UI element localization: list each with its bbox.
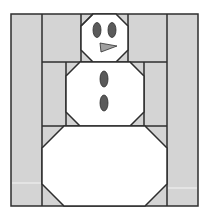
snowman-head — [81, 14, 128, 62]
left-eye-icon — [93, 23, 101, 38]
right-eye-icon — [108, 23, 116, 38]
bottom-button-icon — [100, 95, 108, 111]
snowman-bottom-body — [42, 126, 167, 206]
snowman-quilt-block — [0, 0, 211, 216]
top-button-icon — [100, 71, 108, 87]
